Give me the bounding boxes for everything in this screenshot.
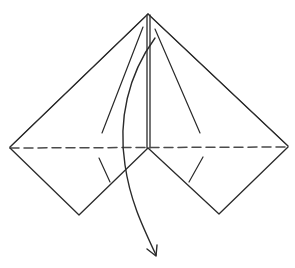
inner-right-crease-upper [155,29,200,133]
valley-fold-line [10,147,288,148]
right-lower-flap [148,147,288,214]
left-lower-flap [10,148,148,215]
inner-left-crease-upper [102,27,143,133]
outer-left-edge [10,14,148,147]
origami-diagram [0,0,295,268]
outer-right-edge [148,14,288,146]
inner-right-crease-lower [189,157,203,182]
inner-left-crease-lower [99,158,110,182]
center-crease [147,15,150,148]
